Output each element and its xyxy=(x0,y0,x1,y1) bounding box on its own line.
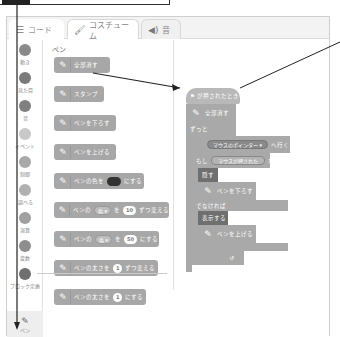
param-dropdown[interactable]: 色 ▾ xyxy=(95,235,112,244)
editor-tabs: ☰ コード 🖌 コスチューム ◀) 音 xyxy=(7,17,329,39)
pen-icon: ✎ xyxy=(58,146,71,159)
brush-icon: 🖌 xyxy=(74,25,85,35)
category-pen-extension[interactable]: ✎ ペン xyxy=(7,311,43,337)
mouse-down-condition[interactable]: マウスが押された xyxy=(211,156,265,165)
value-input[interactable]: 50 xyxy=(124,235,137,244)
block-label: もし xyxy=(196,157,208,165)
tab-label: 音 xyxy=(162,24,170,35)
category-label: 演算 xyxy=(20,226,30,233)
block-label: 全部消す xyxy=(205,109,229,117)
block-label: ペンの xyxy=(73,206,91,214)
value-input[interactable]: 10 xyxy=(123,206,136,215)
category-dot xyxy=(19,268,31,280)
color-picker[interactable] xyxy=(107,177,121,186)
param-dropdown[interactable]: 色 ▾ xyxy=(94,206,111,215)
pen-icon: ✎ xyxy=(58,88,71,101)
category-dot xyxy=(19,184,31,196)
category-label: ブロック定義 xyxy=(10,282,40,289)
when-flag-clicked-block[interactable]: ⚑ が押されたとき xyxy=(186,88,240,104)
forever-block[interactable]: ずっと xyxy=(186,122,236,136)
tab-code[interactable]: ☰ コード xyxy=(9,19,64,39)
block-pen-up[interactable]: ✎ ペンを上げる xyxy=(54,144,116,160)
block-label: ずつ変える xyxy=(139,206,169,214)
block-label: にする xyxy=(125,293,143,301)
category-operators[interactable]: 演算 xyxy=(7,212,43,233)
block-label: を xyxy=(114,206,120,214)
block-change-pen-param[interactable]: ✎ ペンの 色 ▾ を 10 ずつ変える xyxy=(54,202,169,218)
category-label: 変数 xyxy=(20,254,30,261)
block-label: スタンプ xyxy=(74,90,98,98)
value-input[interactable]: 1 xyxy=(113,293,122,302)
tab-sound[interactable]: ◀) 音 xyxy=(141,19,181,39)
category-looks[interactable]: 見た目 xyxy=(7,72,43,93)
pen-icon: ✎ xyxy=(58,291,71,304)
if-else-block[interactable]: もし マウスが押された なら xyxy=(192,153,270,168)
block-set-pen-color[interactable]: ✎ ペンの色を にする xyxy=(54,173,144,189)
category-menu: 動き 見た目 音 イベント 制御 調べる 演算 変数 ブロック定義 ✎ ペン xyxy=(7,40,43,337)
goto-target-dropdown[interactable]: マウスのポインター ▾ xyxy=(207,140,268,149)
category-label: 調べる xyxy=(18,198,33,205)
category-my-blocks[interactable]: ブロック定義 xyxy=(7,268,43,289)
block-palette: ペン ✎ 全部消す ✎ スタンプ ✎ ペンを下ろす ✎ ペンを上げる ✎ ペンの… xyxy=(44,40,174,290)
category-dot xyxy=(19,156,31,168)
else-label-bar: でなければ xyxy=(192,200,288,211)
block-pen-down[interactable]: ✎ ペンを下ろす xyxy=(54,115,116,131)
script-pen-down-block[interactable]: ✎ ペンを下ろす xyxy=(198,182,256,200)
block-label: にする xyxy=(140,235,158,243)
category-dot xyxy=(19,72,31,84)
block-stamp[interactable]: ✎ スタンプ xyxy=(54,86,104,102)
block-set-pen-size[interactable]: ✎ ペンの太さを 1 にする xyxy=(54,289,146,305)
block-label: ペンの xyxy=(74,235,92,243)
hide-block[interactable]: 隠す xyxy=(198,168,218,182)
category-motion[interactable]: 動き xyxy=(7,44,43,65)
category-variables[interactable]: 変数 xyxy=(7,240,43,261)
category-sensing[interactable]: 調べる xyxy=(7,184,43,205)
pen-icon: ✎ xyxy=(58,59,71,72)
pen-icon: ✎ xyxy=(21,316,29,326)
pen-icon: ✎ xyxy=(58,233,71,246)
block-label: 隠す xyxy=(202,171,214,179)
block-label: でなければ xyxy=(196,202,226,210)
category-dot xyxy=(19,44,31,56)
category-label: 音 xyxy=(23,114,28,121)
callout-marker xyxy=(2,0,30,5)
tab-label: コード xyxy=(28,24,52,35)
block-label: 表示する xyxy=(202,214,226,222)
pen-icon: ✎ xyxy=(58,204,70,217)
tab-costume[interactable]: 🖌 コスチューム xyxy=(67,19,139,39)
block-label: なら xyxy=(268,157,280,165)
category-label: 制御 xyxy=(20,170,30,177)
palette-section-title: ペン xyxy=(52,44,66,54)
loop-arrow-icon: ↺ xyxy=(229,255,234,261)
category-dot xyxy=(19,128,31,140)
speaker-icon: ◀) xyxy=(148,25,158,35)
category-label: 見た目 xyxy=(18,86,33,93)
block-label: ペンの太さを xyxy=(74,293,110,301)
category-sound[interactable]: 音 xyxy=(7,100,43,121)
pen-icon: ✎ xyxy=(58,117,71,130)
block-label: ⚑ が押されたとき xyxy=(190,92,239,100)
script-area: ⚑ が押されたとき ✎ 全部消す ずっと マウスのポインター ▾ へ行く もし … xyxy=(174,40,329,280)
value-input[interactable]: 1 xyxy=(113,264,122,273)
palette-bottom-border xyxy=(37,273,167,274)
if-bottom-arm xyxy=(192,243,288,251)
category-control[interactable]: 制御 xyxy=(7,156,43,177)
block-label: 全部消す xyxy=(74,61,98,69)
forever-bottom-arm: ↺ xyxy=(186,251,244,265)
block-label: にする xyxy=(124,177,142,185)
block-label: ずつ変える xyxy=(125,264,155,272)
show-block[interactable]: 表示する xyxy=(198,211,228,225)
script-pen-up-block[interactable]: ✎ ペンを上げる xyxy=(198,225,256,243)
scratch-editor: ☰ コード 🖌 コスチューム ◀) 音 動き 見た目 音 イベント 制御 調べる… xyxy=(6,16,330,336)
block-label: ペンを下ろす xyxy=(217,187,253,195)
block-clear[interactable]: ✎ 全部消す xyxy=(54,57,110,73)
block-label: ペンの色を xyxy=(74,177,104,185)
category-dot xyxy=(19,100,31,112)
script-clear-block[interactable]: ✎ 全部消す xyxy=(186,104,236,122)
category-events[interactable]: イベント xyxy=(7,128,43,149)
goto-block[interactable]: マウスのポインター ▾ へ行く xyxy=(192,136,290,153)
tab-label: コスチューム xyxy=(89,19,132,41)
category-dot xyxy=(19,240,31,252)
block-set-pen-param[interactable]: ✎ ペンの 色 ▾ を 50 にする xyxy=(54,231,159,247)
pen-icon: ✎ xyxy=(202,228,214,241)
